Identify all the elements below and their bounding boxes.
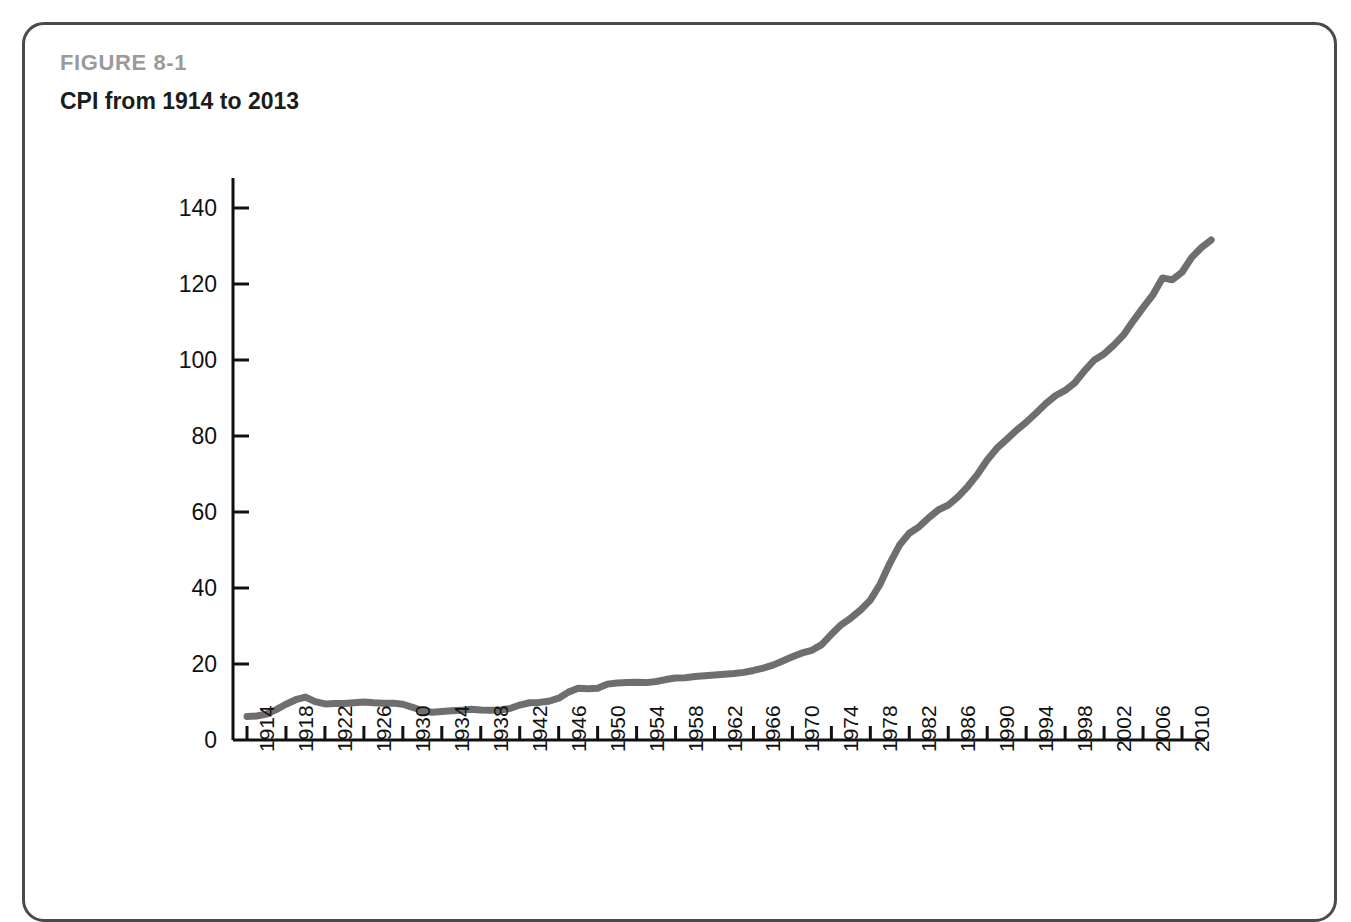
y-axis-tick-label: 20 xyxy=(147,653,217,676)
x-axis-tick-label: 1958 xyxy=(685,705,706,752)
y-axis-tick-label: 60 xyxy=(147,501,217,524)
x-axis-tick-label: 2010 xyxy=(1191,705,1212,752)
x-axis-tick-label: 1982 xyxy=(918,705,939,752)
x-axis-tick-label: 1990 xyxy=(996,705,1017,752)
x-axis-tick-label: 2006 xyxy=(1152,705,1173,752)
x-axis-tick-label: 1974 xyxy=(840,705,861,752)
cpi-data-line xyxy=(247,240,1211,717)
x-axis-tick-label: 1986 xyxy=(957,705,978,752)
y-axis-tick-label: 0 xyxy=(147,729,217,752)
x-axis-tick-label: 1954 xyxy=(646,705,667,752)
x-axis-tick-label: 1978 xyxy=(879,705,900,752)
y-axis xyxy=(233,178,249,740)
x-axis-tick-label: 1942 xyxy=(529,705,550,752)
x-axis-tick-label: 1938 xyxy=(490,705,511,752)
x-axis-tick-label: 1966 xyxy=(762,705,783,752)
y-axis-tick-label: 140 xyxy=(147,197,217,220)
x-axis-tick-label: 1918 xyxy=(295,705,316,752)
y-axis-tick-label: 100 xyxy=(147,349,217,372)
y-axis-tick-label: 120 xyxy=(147,273,217,296)
x-axis-tick-label: 1970 xyxy=(801,705,822,752)
x-axis-tick-label: 1998 xyxy=(1074,705,1095,752)
x-axis-tick-label: 1962 xyxy=(724,705,745,752)
x-axis-tick-label: 1930 xyxy=(412,705,433,752)
x-axis-tick-label: 1950 xyxy=(607,705,628,752)
x-axis-tick-label: 1934 xyxy=(451,705,472,752)
x-axis-tick-label: 1914 xyxy=(256,705,277,752)
x-axis-tick-label: 1922 xyxy=(334,705,355,752)
x-axis-tick-label: 1946 xyxy=(568,705,589,752)
y-axis-ticks xyxy=(233,208,249,664)
x-axis-tick-label: 2002 xyxy=(1113,705,1134,752)
y-axis-tick-label: 40 xyxy=(147,577,217,600)
x-axis-tick-label: 1994 xyxy=(1035,705,1056,752)
x-axis-tick-label: 1926 xyxy=(373,705,394,752)
y-axis-tick-label: 80 xyxy=(147,425,217,448)
